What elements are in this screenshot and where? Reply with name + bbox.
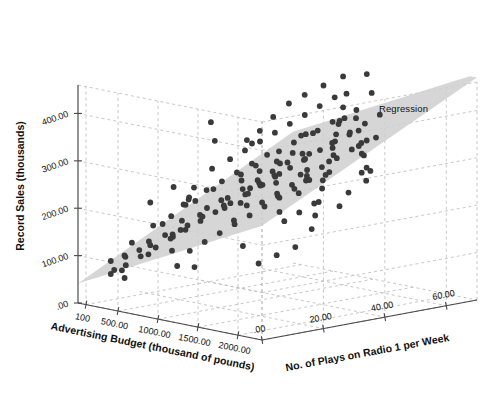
svg-text:No. of Plays on Radio 1 per We: No. of Plays on Radio 1 per Week xyxy=(285,331,451,373)
svg-text:200.00: 200.00 xyxy=(40,204,69,222)
svg-text:100.00: 100.00 xyxy=(40,251,69,269)
svg-text:40.00: 40.00 xyxy=(370,299,394,313)
scatter3d-plot: .00100.00200.00300.00400.00100500.001000… xyxy=(0,0,489,398)
svg-text:300.00: 300.00 xyxy=(40,156,69,174)
svg-text:Record Sales (thousands): Record Sales (thousands) xyxy=(14,121,26,251)
chart-container: .00100.00200.00300.00400.00100500.001000… xyxy=(0,0,489,398)
axis-tick-labels: .00100.00200.00300.00400.00100500.001000… xyxy=(40,109,455,356)
svg-text:60.00: 60.00 xyxy=(432,288,456,302)
svg-text:.00: .00 xyxy=(55,298,70,312)
svg-text:.00: .00 xyxy=(252,323,266,335)
svg-text:20.00: 20.00 xyxy=(309,311,333,325)
svg-text:400.00: 400.00 xyxy=(40,109,69,127)
regression-annotation: Regression xyxy=(379,103,428,114)
svg-text:100: 100 xyxy=(74,311,91,324)
